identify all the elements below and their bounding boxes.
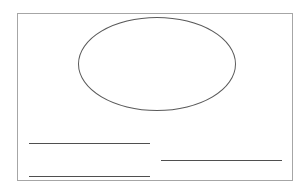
left-lower-line bbox=[29, 176, 150, 177]
top-ellipse bbox=[78, 17, 236, 111]
diagram-canvas bbox=[0, 0, 307, 193]
right-middle-line bbox=[161, 160, 282, 161]
left-upper-line bbox=[29, 143, 150, 144]
